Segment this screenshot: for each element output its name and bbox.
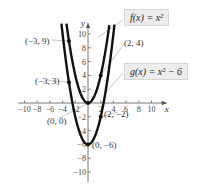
x-tick-label: 8 (137, 105, 141, 114)
f-point (86, 101, 90, 105)
y-tick-label: 8 (82, 44, 86, 53)
g-point (67, 80, 71, 84)
graph: −10−8−6−4−2246810108642−2−4−6−8−10xy(−3,… (0, 0, 206, 184)
g-label-box: g(x) = x² − 6 (124, 63, 188, 80)
point-label-g-2: (2, −2) (104, 109, 129, 119)
y-tick-label: −10 (73, 168, 86, 177)
point-label-f-2: (2, 4) (124, 38, 144, 48)
f-point (67, 39, 71, 43)
x-axis-label: x (164, 104, 169, 114)
f-label-box: f(x) = x² (124, 9, 169, 26)
y-tick-label: −2 (77, 113, 86, 122)
point-label-f-neg3: (−3, 9) (25, 36, 50, 46)
x-tick-label: −6 (46, 105, 55, 114)
x-tick-label: −4 (58, 105, 67, 114)
y-tick-label: 4 (82, 71, 86, 80)
g-point (86, 142, 90, 146)
point-label-f-vertex: (0, 0) (47, 116, 67, 126)
leader-line (98, 20, 123, 37)
y-axis-label: y (80, 18, 85, 28)
g-point (99, 115, 103, 119)
y-tick-label: 2 (82, 85, 86, 94)
point-label-g-vertex: (0, −6) (92, 140, 117, 150)
x-tick-label: −10 (18, 105, 31, 114)
y-axis-arrow-icon (86, 23, 90, 28)
y-tick-label: 10 (78, 30, 86, 39)
y-tick-label: 6 (82, 58, 86, 67)
x-tick-label: 10 (148, 105, 156, 114)
y-tick-label: −8 (77, 154, 86, 163)
point-label-g-neg3: (−3, 3) (35, 76, 60, 86)
x-tick-label: −8 (33, 105, 42, 114)
f-point (99, 73, 103, 77)
